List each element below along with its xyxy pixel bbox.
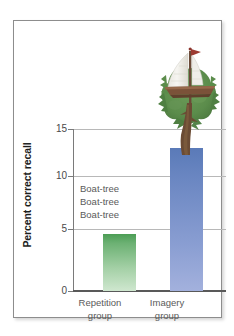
bar-imagery-group — [170, 148, 203, 291]
y-tick-label-10: 10 — [56, 171, 67, 181]
x-category-label-imagery-line1: Imagery — [127, 297, 207, 310]
x-category-label-imagery-line2: group — [127, 310, 207, 323]
y-axis-line — [73, 129, 74, 291]
gridline-15 — [73, 129, 226, 130]
pennant-flag — [191, 49, 201, 56]
annotation-boat-tree-line-1: Boat-tree — [80, 182, 119, 195]
boat-hull — [165, 86, 215, 95]
annotation-boat-tree-line-3: Boat-tree — [80, 208, 119, 221]
tree-foliage — [158, 68, 220, 130]
y-tick-label-15: 15 — [56, 124, 67, 134]
hull-rail — [165, 86, 215, 90]
y-tick-label-5: 5 — [61, 224, 67, 234]
masthead — [189, 47, 192, 50]
jib-sail — [192, 55, 203, 85]
annotation-boat-tree-list: Boat-tree Boat-tree Boat-tree — [80, 182, 119, 222]
gridline-5 — [73, 229, 226, 230]
y-axis-tick-labels: 15 10 5 0 — [50, 124, 67, 299]
x-axis-line — [73, 290, 226, 292]
figure-frame: Percent correct recall 15 10 5 0 Boat-tr… — [13, 20, 222, 318]
mast — [189, 51, 191, 105]
hull-shadow — [170, 94, 211, 98]
gridline-10 — [73, 176, 226, 177]
y-tick-label-0: 0 — [61, 286, 67, 296]
x-category-label-imagery: Imagery group — [127, 297, 207, 322]
mainsail — [168, 53, 188, 87]
y-axis-title: Percent correct recall — [21, 120, 33, 270]
annotation-boat-tree-line-2: Boat-tree — [80, 195, 119, 208]
bar-repetition-group — [103, 234, 136, 291]
